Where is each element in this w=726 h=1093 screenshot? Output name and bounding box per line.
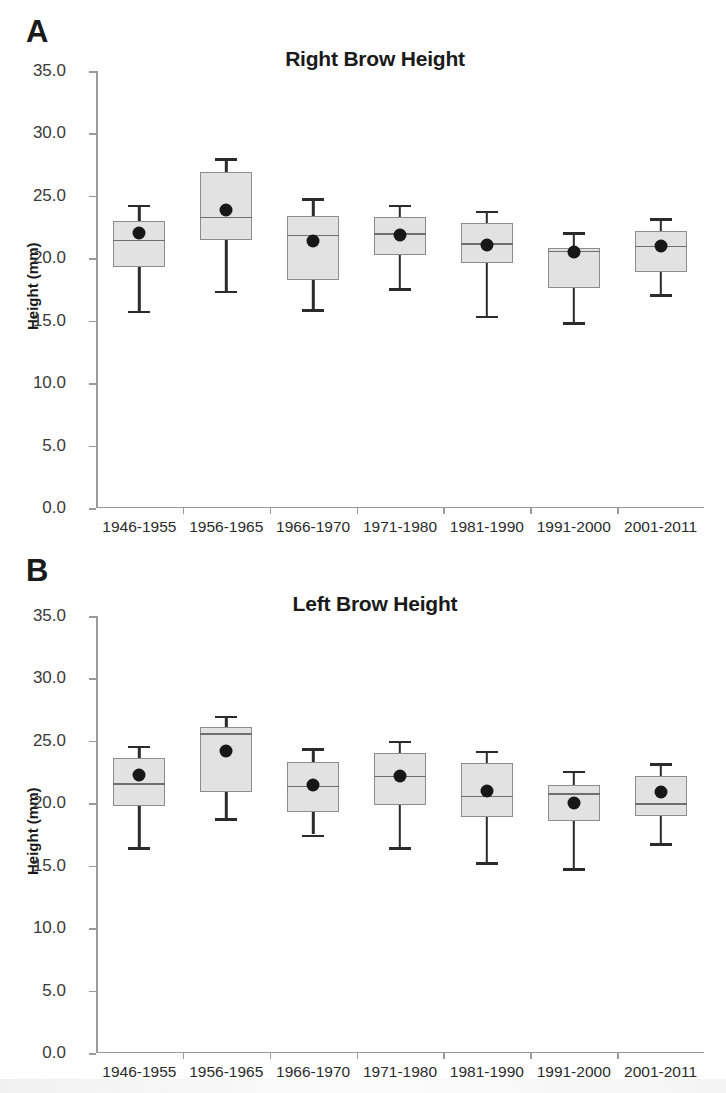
lower-whisker-stem: [573, 288, 575, 322]
lower-whisker-stem: [225, 792, 227, 818]
x-axis-tick: [357, 1053, 359, 1059]
lower-whisker-cap: [650, 294, 672, 297]
lower-whisker-stem: [486, 263, 488, 315]
upper-whisker-stem: [312, 198, 314, 215]
x-axis-category-label: 1971-1980: [363, 518, 437, 536]
lower-whisker-stem: [225, 240, 227, 291]
interquartile-box: [113, 758, 165, 805]
upper-whisker-cap: [650, 763, 672, 766]
y-axis-tick-label: 35.0: [0, 606, 66, 626]
box-plot-1981-1990: [461, 616, 513, 1053]
y-axis-tick-label: 30.0: [0, 123, 66, 143]
median-line: [548, 793, 600, 794]
lower-whisker-cap: [563, 868, 585, 871]
lower-whisker-cap: [476, 862, 498, 865]
y-axis-tick-label: 10.0: [0, 918, 66, 938]
lower-whisker-stem: [486, 817, 488, 862]
y-axis-tick: [89, 866, 96, 868]
box-plot-1946-1955: [113, 616, 165, 1053]
box-plot-1956-1965: [200, 71, 252, 508]
mean-marker: [567, 797, 580, 810]
x-axis-tick: [617, 508, 619, 514]
upper-whisker-cap: [128, 746, 150, 749]
x-axis-tick: [183, 508, 185, 514]
lower-whisker-cap: [215, 818, 237, 821]
x-axis-category-label: 1946-1955: [102, 518, 176, 536]
mean-marker: [480, 784, 493, 797]
y-axis-tick: [89, 133, 96, 135]
x-axis-tick: [270, 1053, 272, 1059]
y-axis-tick: [89, 321, 96, 323]
lower-whisker-cap: [302, 835, 324, 838]
upper-whisker-cap: [302, 748, 324, 751]
upper-whisker-cap: [650, 218, 672, 221]
y-axis-tick-label: 15.0: [0, 856, 66, 876]
panel-b-y-axis: [96, 616, 98, 1053]
panel-a-y-axis: [96, 71, 98, 508]
x-axis-tick: [443, 1053, 445, 1059]
lower-whisker-stem: [659, 272, 661, 294]
mean-marker: [220, 744, 233, 757]
median-line: [200, 217, 252, 218]
lower-whisker-cap: [389, 847, 411, 850]
box-plot-1966-1970: [287, 616, 339, 1053]
upper-whisker-cap: [215, 158, 237, 161]
panel-a-plot-area: 0.05.010.015.020.025.030.035.01946-19551…: [96, 71, 704, 508]
x-axis-category-label: 1981-1990: [450, 518, 524, 536]
lower-whisker-cap: [389, 288, 411, 291]
mean-marker: [654, 239, 667, 252]
upper-whisker-cap: [215, 716, 237, 719]
lower-whisker-stem: [399, 805, 401, 847]
x-axis-tick: [530, 1053, 532, 1059]
x-axis-category-label: 1966-1970: [276, 518, 350, 536]
upper-whisker-cap: [389, 205, 411, 208]
box-plot-2001-2011: [635, 616, 687, 1053]
mean-marker: [133, 227, 146, 240]
lower-whisker-stem: [312, 812, 314, 834]
x-axis-tick: [530, 508, 532, 514]
y-axis-tick-label: 25.0: [0, 186, 66, 206]
upper-whisker-cap: [302, 198, 324, 201]
lower-whisker-stem: [138, 806, 140, 847]
panel-b-plot-area: 0.05.010.015.020.025.030.035.01946-19551…: [96, 616, 704, 1053]
x-axis-tick: [443, 508, 445, 514]
y-axis-tick-label: 20.0: [0, 793, 66, 813]
mean-marker: [307, 778, 320, 791]
lower-whisker-cap: [215, 291, 237, 294]
lower-whisker-stem: [399, 255, 401, 289]
panel-a-title: Right Brow Height: [150, 47, 600, 71]
mean-marker: [394, 769, 407, 782]
box-plot-1946-1955: [113, 71, 165, 508]
lower-whisker-stem: [659, 816, 661, 843]
lower-whisker-cap: [476, 316, 498, 319]
y-axis-tick-label: 5.0: [0, 981, 66, 1001]
y-axis-tick: [89, 928, 96, 930]
x-axis-category-label: 2001-2011: [624, 518, 697, 536]
x-axis-tick: [357, 508, 359, 514]
lower-whisker-cap: [128, 311, 150, 314]
x-axis-category-label: 1991-2000: [537, 518, 611, 536]
y-axis-tick-label: 35.0: [0, 61, 66, 81]
y-axis-tick-label: 5.0: [0, 436, 66, 456]
y-axis-tick: [89, 1053, 96, 1055]
median-line: [635, 803, 687, 804]
panel-a: A Right Brow Height Height (mm) 0.05.010…: [0, 0, 726, 548]
interquartile-box: [200, 727, 252, 792]
y-axis-tick: [89, 71, 96, 73]
upper-whisker-cap: [563, 771, 585, 774]
y-axis-tick: [89, 446, 96, 448]
y-axis-tick-label: 10.0: [0, 373, 66, 393]
median-line: [200, 733, 252, 734]
panel-b-title: Left Brow Height: [150, 592, 600, 616]
box-plot-2001-2011: [635, 71, 687, 508]
y-axis-tick-label: 30.0: [0, 668, 66, 688]
upper-whisker-cap: [128, 205, 150, 208]
y-axis-tick-label: 0.0: [0, 1043, 66, 1063]
y-axis-tick: [89, 678, 96, 680]
box-plot-1981-1990: [461, 71, 513, 508]
lower-whisker-stem: [573, 821, 575, 868]
upper-whisker-cap: [389, 741, 411, 744]
lower-whisker-stem: [312, 280, 314, 310]
mean-marker: [220, 203, 233, 216]
lower-whisker-cap: [302, 309, 324, 312]
